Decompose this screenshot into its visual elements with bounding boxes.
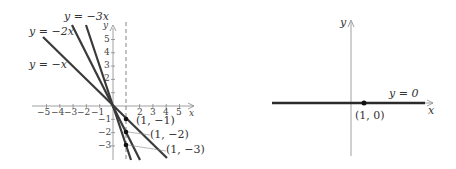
point-1-neg2 bbox=[124, 130, 129, 135]
svg-text:y: y bbox=[339, 16, 347, 29]
svg-text:−3: −3 bbox=[64, 107, 78, 117]
svg-text:−1: −1 bbox=[98, 114, 111, 124]
svg-text:x: x bbox=[428, 104, 435, 117]
svg-text:x: x bbox=[189, 108, 194, 118]
point-1-neg1 bbox=[124, 117, 129, 122]
point-label: (1, −2) bbox=[150, 128, 189, 141]
svg-text:−5: −5 bbox=[37, 107, 51, 117]
figure: −5 −4 −3 −2 −1 2 3 4 5 x 5 4 3 2 −1 −2 −… bbox=[0, 0, 456, 169]
svg-text:4: 4 bbox=[104, 47, 110, 57]
svg-text:5: 5 bbox=[104, 34, 110, 44]
line-label: y = −3x bbox=[63, 10, 110, 23]
point-label: (1, −1) bbox=[136, 114, 175, 127]
point-1-0 bbox=[362, 101, 367, 106]
svg-text:3: 3 bbox=[104, 60, 110, 70]
point-label: (1, −3) bbox=[166, 143, 205, 156]
line-label: y = −x bbox=[28, 58, 68, 71]
svg-text:−2: −2 bbox=[98, 127, 111, 137]
svg-text:−4: −4 bbox=[51, 107, 65, 117]
svg-text:−3: −3 bbox=[98, 140, 112, 150]
point-label: (1, 0) bbox=[355, 109, 385, 122]
svg-text:5: 5 bbox=[176, 107, 182, 117]
left-graph: −5 −4 −3 −2 −1 2 3 4 5 x 5 4 3 2 −1 −2 −… bbox=[28, 10, 205, 160]
svg-text:−2: −2 bbox=[77, 107, 90, 117]
line-label: y = −2x bbox=[28, 25, 75, 38]
line-label: y = 0 bbox=[388, 87, 418, 100]
point-1-neg3 bbox=[124, 143, 129, 148]
right-graph: y x y = 0 (1, 0) bbox=[272, 16, 435, 156]
